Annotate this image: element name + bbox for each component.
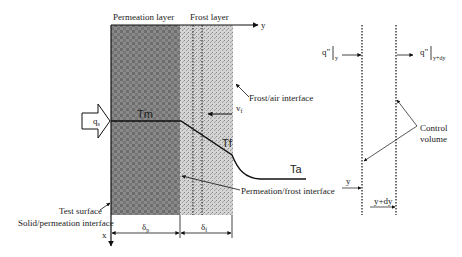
flux-out-sub: y+dy	[433, 55, 445, 61]
control-volume-pointer-2	[364, 126, 417, 161]
flux-in-sub: y	[335, 55, 338, 61]
frost-air-pointer	[236, 84, 249, 97]
frost-layer-header: Frost layer	[190, 12, 229, 22]
y-position-label: y	[346, 176, 351, 186]
delta-f-label: δf	[201, 222, 207, 233]
frost-air-interface-label: Frost/air interface	[249, 93, 313, 103]
temp-a-label: Ta	[290, 163, 303, 175]
ydy-position-label: y+dy	[374, 196, 393, 206]
frost-layer-diagram: y x Permeation layer Frost layer qs Tm T…	[0, 0, 462, 257]
solid-permeation-interface-label: Solid/permeation interface	[18, 218, 114, 228]
control-volume-pointer-1	[397, 100, 417, 126]
x-axis-label: x	[102, 230, 107, 240]
test-surface-label: Test surface	[59, 206, 102, 216]
velocity-label: vf	[236, 103, 243, 114]
flux-out-label: q"	[420, 47, 429, 57]
temp-f-label: Tf	[222, 137, 233, 149]
permeation-frost-interface-label: Permeation/frost interface	[241, 186, 335, 196]
control-volume-label-1: Control	[420, 123, 448, 133]
flux-in-label: q"	[322, 47, 331, 57]
delta-p-label: δp	[142, 222, 149, 233]
permeation-layer-header: Permeation layer	[113, 12, 174, 22]
y-axis-label: y	[261, 20, 266, 30]
temp-m-label: Tm	[137, 108, 153, 120]
permeation-layer	[111, 25, 180, 215]
control-volume-label-2: volume	[420, 134, 447, 144]
